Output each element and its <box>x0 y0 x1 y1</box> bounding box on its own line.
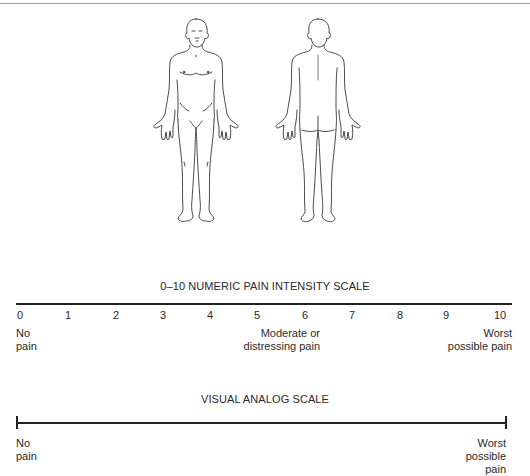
numeric-mid-anchor: Moderate or distressing pain <box>190 327 320 353</box>
numeric-low-anchor-line1: No <box>16 327 37 340</box>
vas-high-anchor-line2: possible <box>420 450 506 463</box>
back-body-figure[interactable] <box>276 19 360 222</box>
tick-9[interactable]: 9 <box>436 309 456 321</box>
tick-1[interactable]: 1 <box>58 309 78 321</box>
vas-title: VISUAL ANALOG SCALE <box>0 393 530 405</box>
vas-high-anchor: Worst possible pain <box>420 437 506 476</box>
body-diagrams <box>0 0 530 240</box>
vas-high-anchor-line3: pain <box>420 463 506 476</box>
tick-10[interactable]: 10 <box>490 309 510 321</box>
numeric-high-anchor: Worst possible pain <box>400 327 512 353</box>
tick-6[interactable]: 6 <box>295 309 315 321</box>
tick-5[interactable]: 5 <box>247 309 267 321</box>
vas-low-anchor-line2: pain <box>16 450 37 463</box>
numeric-scale-title: 0–10 NUMERIC PAIN INTENSITY SCALE <box>0 280 530 292</box>
tick-7[interactable]: 7 <box>342 309 362 321</box>
vas-line[interactable] <box>16 422 506 424</box>
front-body-figure[interactable] <box>154 19 238 221</box>
numeric-mid-anchor-line2: distressing pain <box>190 340 320 353</box>
vas-low-anchor: No pain <box>16 437 37 463</box>
vas-low-anchor-line1: No <box>16 437 37 450</box>
tick-0[interactable]: 0 <box>10 309 30 321</box>
tick-8[interactable]: 8 <box>390 309 410 321</box>
numeric-high-anchor-line1: Worst <box>400 327 512 340</box>
tick-2[interactable]: 2 <box>106 309 126 321</box>
numeric-high-anchor-line2: possible pain <box>400 340 512 353</box>
tick-4[interactable]: 4 <box>200 309 220 321</box>
numeric-low-anchor-line2: pain <box>16 340 37 353</box>
tick-3[interactable]: 3 <box>153 309 173 321</box>
vas-high-anchor-line1: Worst <box>420 437 506 450</box>
numeric-low-anchor: No pain <box>16 327 37 353</box>
vas-right-endcap <box>505 416 507 429</box>
numeric-scale-line[interactable] <box>16 303 512 305</box>
numeric-mid-anchor-line1: Moderate or <box>190 327 320 340</box>
